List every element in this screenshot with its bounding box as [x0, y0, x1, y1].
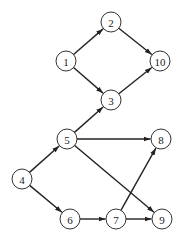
edge-layer	[29, 28, 155, 219]
edge-2-to-10-arrow	[119, 28, 152, 54]
node-label: 2	[108, 17, 114, 29]
node-label: 1	[63, 56, 69, 68]
node-label: 4	[19, 174, 25, 186]
edge-4-to-6-arrow	[30, 185, 62, 212]
directed-graph: 12345678910	[0, 0, 184, 240]
edge-7-to-8-arrow	[121, 148, 156, 210]
node-5: 5	[57, 129, 77, 149]
edge-5-to-3-arrow	[74, 107, 103, 132]
node-8: 8	[151, 129, 171, 149]
edge-3-to-10-arrow	[119, 68, 152, 94]
node-label: 9	[159, 214, 165, 226]
edge-4-to-5-arrow	[29, 146, 59, 172]
node-2: 2	[101, 12, 121, 32]
edge-1-to-2-arrow	[74, 29, 104, 55]
edge-5-to-9-arrow	[75, 145, 154, 212]
node-label: 8	[158, 134, 164, 146]
node-label: 10	[155, 56, 167, 68]
node-label: 6	[67, 214, 73, 226]
node-6: 6	[60, 209, 80, 229]
node-9: 9	[152, 209, 172, 229]
node-layer: 12345678910	[12, 12, 172, 229]
node-1: 1	[56, 51, 76, 71]
node-10: 10	[150, 51, 170, 71]
node-label: 3	[108, 95, 114, 107]
node-label: 5	[64, 134, 70, 146]
node-label: 7	[113, 214, 119, 226]
node-7: 7	[106, 209, 126, 229]
node-4: 4	[12, 169, 32, 189]
edge-1-to-3-arrow	[74, 68, 104, 94]
node-3: 3	[101, 90, 121, 110]
